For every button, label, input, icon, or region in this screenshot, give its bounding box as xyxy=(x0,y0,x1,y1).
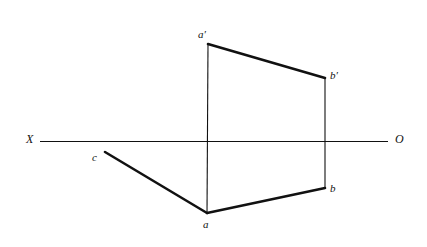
point-label-a: a xyxy=(203,219,209,230)
object-edges-group xyxy=(105,44,325,213)
projector-a-prime-a xyxy=(207,44,208,213)
diagram-canvas: X O a′ b′ a b c xyxy=(0,0,427,247)
top-view-edge-a-b xyxy=(207,188,325,213)
point-label-b: b xyxy=(330,183,336,194)
front-view-top-edge xyxy=(208,44,325,78)
top-view-edge-c-a xyxy=(105,152,207,213)
projection-drawing xyxy=(0,0,427,247)
point-label-a-prime: a′ xyxy=(198,29,206,40)
point-label-b-prime: b′ xyxy=(330,70,338,81)
axis-label-o: O xyxy=(395,133,404,145)
projector-lines-group xyxy=(207,44,325,213)
axis-label-x: X xyxy=(26,133,33,145)
point-label-c: c xyxy=(92,152,97,163)
